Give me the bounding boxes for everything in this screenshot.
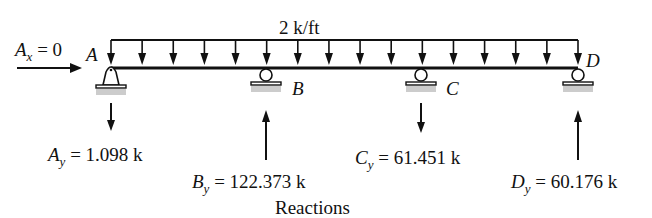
load-label: 2 k/ft — [279, 18, 320, 37]
reaction-cy: Cy = 61.451 k — [355, 148, 460, 167]
roller-support-c-icon — [406, 69, 436, 92]
support-label-c: C — [446, 79, 459, 98]
roller-support-b-icon — [251, 69, 281, 92]
dy-arrow-up-icon — [574, 110, 582, 160]
ax-label: Ax = 0 — [15, 40, 62, 59]
ay-arrow-down-icon — [107, 103, 115, 131]
roller-support-d-icon — [563, 69, 593, 92]
distributed-load — [107, 40, 582, 65]
by-arrow-up-icon — [262, 110, 270, 160]
ax-arrow-icon — [17, 63, 82, 73]
support-label-b: B — [292, 79, 304, 98]
load-arrows-icon — [107, 40, 582, 65]
pin-support-a-icon — [96, 67, 126, 95]
reaction-ay: Ay = 1.098 k — [48, 145, 143, 164]
cy-arrow-down-icon — [417, 103, 425, 133]
reaction-by: By = 122.373 k — [192, 172, 306, 191]
support-label-d: D — [586, 51, 600, 70]
diagram-title: Reactions — [275, 198, 350, 217]
reaction-dy: Dy = 60.176 k — [511, 172, 617, 191]
support-label-a: A — [86, 45, 98, 64]
